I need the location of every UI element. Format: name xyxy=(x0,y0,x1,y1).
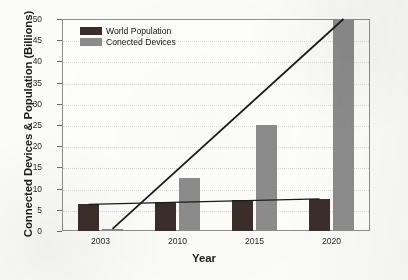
chart-container: Connected Devices & Population (Billions… xyxy=(0,0,408,280)
trend-line-overlay xyxy=(0,0,408,280)
connected-devices-trend-line xyxy=(113,19,344,229)
world-population-trend-line xyxy=(89,199,320,205)
